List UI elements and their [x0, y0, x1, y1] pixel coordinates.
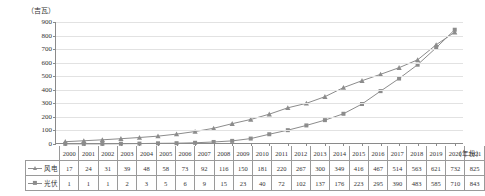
- year-header-cell: 2007: [195, 146, 214, 161]
- y-axis-tick-label: 600: [42, 59, 53, 66]
- table-value-cell: 390: [388, 176, 407, 191]
- table-value-cell: 710: [446, 176, 465, 191]
- table-value-cell: 15: [214, 176, 233, 191]
- table-value-cell: 467: [368, 161, 387, 176]
- table-value-cell: 72: [272, 176, 291, 191]
- year-header-cell: 2004: [137, 146, 156, 161]
- year-header-cell: 2001: [79, 146, 98, 161]
- table-value-cell: 181: [253, 161, 272, 176]
- year-header-cell: 2011: [272, 146, 291, 161]
- y-axis-tick-mark: [53, 63, 56, 64]
- triangle-marker-icon: [28, 164, 42, 172]
- table-value-cell: 73: [175, 161, 194, 176]
- data-point-marker: [267, 132, 271, 136]
- data-table: 2000200120022003200420052006200720082009…: [25, 146, 485, 191]
- table-value-cell: 137: [310, 176, 329, 191]
- gridline: [56, 63, 463, 64]
- gridline: [56, 49, 463, 50]
- gridline: [56, 90, 463, 91]
- table-value-cell: 58: [156, 161, 175, 176]
- table-value-cell: 17: [60, 161, 79, 176]
- data-point-marker: [304, 123, 308, 127]
- table-value-cell: 223: [349, 176, 368, 191]
- year-header-cell: 2015: [349, 146, 368, 161]
- table-value-cell: 150: [233, 161, 252, 176]
- table-value-cell: 5: [156, 176, 175, 191]
- table-value-cell: 1: [98, 176, 117, 191]
- table-value-cell: 349: [330, 161, 349, 176]
- series-1: [63, 30, 458, 144]
- table-value-cell: 3: [137, 176, 156, 191]
- year-header-cell: 2019: [426, 146, 445, 161]
- y-axis-tick-label: 900: [42, 19, 53, 26]
- y-axis-tick-label: 500: [42, 73, 53, 80]
- table-value-cell: 563: [407, 161, 426, 176]
- table-value-cell: 300: [310, 161, 329, 176]
- y-axis-tick-mark: [53, 90, 56, 91]
- table-value-cell: 2: [117, 176, 136, 191]
- table-value-cell: 585: [426, 176, 445, 191]
- gridline: [56, 103, 463, 104]
- y-axis-tick-mark: [53, 76, 56, 77]
- table-value-cell: 843: [465, 176, 485, 191]
- table-year-header-row: 2000200120022003200420052006200720082009…: [26, 146, 485, 161]
- series-line: [65, 30, 454, 144]
- table-row: 光伏11123569152340721021371762232953904835…: [26, 176, 485, 191]
- table-value-cell: 40: [253, 176, 272, 191]
- table-value-cell: 220: [272, 161, 291, 176]
- table-value-cell: 48: [137, 161, 156, 176]
- y-axis-tick-mark: [53, 22, 56, 23]
- y-axis-unit-label: （吉瓦）: [27, 7, 55, 16]
- table-value-cell: 39: [117, 161, 136, 176]
- gridline: [56, 130, 463, 131]
- table-value-cell: 416: [349, 161, 368, 176]
- year-header-cell: 2012: [291, 146, 310, 161]
- year-header-cell: 2006: [175, 146, 194, 161]
- y-axis-tick-label: 300: [42, 100, 53, 107]
- table-value-cell: 483: [407, 176, 426, 191]
- table-corner-cell: [26, 146, 60, 161]
- legend-label: 光伏: [44, 178, 58, 188]
- table-value-cell: 1: [60, 176, 79, 191]
- y-axis-tick-mark: [53, 36, 56, 37]
- data-point-marker: [322, 94, 327, 99]
- table-value-cell: 621: [426, 161, 445, 176]
- year-header-cell: 2008: [214, 146, 233, 161]
- year-header-cell: 2017: [388, 146, 407, 161]
- square-marker-icon: [28, 179, 42, 187]
- table-value-cell: 295: [368, 176, 387, 191]
- y-axis-tick-mark: [53, 117, 56, 118]
- legend-item-1[interactable]: 风电: [26, 161, 60, 176]
- gridline: [56, 22, 463, 23]
- year-header-cell: 2003: [117, 146, 136, 161]
- year-header-cell: 2009: [233, 146, 252, 161]
- table-value-cell: 116: [214, 161, 233, 176]
- y-axis-tick-label: 700: [42, 46, 53, 53]
- data-point-marker: [396, 65, 401, 70]
- data-point-marker: [249, 137, 253, 141]
- table-row: 风电17243139485873921161501812202673003494…: [26, 161, 485, 176]
- y-axis-tick-mark: [53, 144, 56, 145]
- table-value-cell: 102: [291, 176, 310, 191]
- legend-item-2[interactable]: 光伏: [26, 176, 60, 191]
- y-axis-tick-mark: [53, 103, 56, 104]
- data-point-marker: [323, 118, 327, 122]
- y-axis-tick-mark: [53, 130, 56, 131]
- year-header-cell: 2002: [98, 146, 117, 161]
- year-header-cell: 2000: [60, 146, 79, 161]
- y-axis-tick-label: 400: [42, 86, 53, 93]
- table-value-cell: 9: [195, 176, 214, 191]
- gridline: [56, 36, 463, 37]
- series-2: [63, 28, 456, 146]
- year-header-cell: 2014: [330, 146, 349, 161]
- series-layer: [56, 22, 464, 144]
- legend-label: 风电: [44, 163, 58, 173]
- plot-area: 0100200300400500600700800900: [55, 22, 463, 144]
- table-value-cell: 176: [330, 176, 349, 191]
- table-value-cell: 825: [465, 161, 485, 176]
- x-axis-unit-label: （年份）: [455, 147, 483, 160]
- chart-screenshot: （吉瓦） 0100200300400500600700800900 200020…: [0, 0, 485, 196]
- y-axis-tick-mark: [53, 49, 56, 50]
- table-value-cell: 1: [79, 176, 98, 191]
- year-header-cell: 2005: [156, 146, 175, 161]
